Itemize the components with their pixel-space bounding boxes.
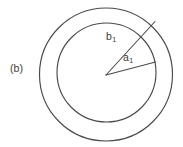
figure-panel-b: (b) b1 a1	[0, 0, 183, 147]
annulus-diagram	[0, 0, 183, 147]
panel-label: (b)	[10, 63, 23, 74]
outer-radius-subscript: 1	[112, 35, 116, 44]
inner-radius-label: a1	[123, 52, 133, 63]
outer-radius-label: b1	[106, 31, 116, 42]
inner-radius-subscript: 1	[129, 56, 133, 65]
